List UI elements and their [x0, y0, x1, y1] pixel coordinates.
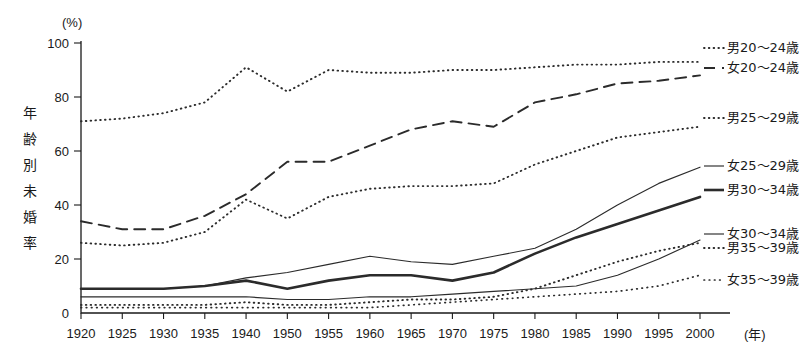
chart-legend: 男20～24歳女20～24歳男25～29歳女25～29歳男30～34歳女30～3…: [704, 40, 799, 287]
series-line-5: [81, 240, 700, 299]
y-tick-label: 40: [55, 198, 69, 213]
series-line-1: [81, 75, 700, 229]
y-tick-label: 100: [47, 36, 69, 51]
y-axis-title-char: 別: [23, 157, 37, 173]
y-axis-title-char: 年: [23, 105, 37, 121]
x-tick-label: 1970: [438, 326, 467, 341]
y-axis-unit-label: (%): [62, 15, 82, 30]
x-tick-label: 1955: [314, 326, 343, 341]
chart-container: (%) 年齢別未婚率 020406080100 1920192519301935…: [0, 0, 804, 350]
y-tick-label: 20: [55, 252, 69, 267]
y-axis-title: 年齢別未婚率: [23, 105, 37, 251]
legend-label-7: 女35～39歳: [727, 272, 799, 287]
y-axis-title-char: 率: [23, 235, 37, 251]
x-tick-label: 1960: [355, 326, 384, 341]
y-tick-label: 60: [55, 144, 69, 159]
y-axis-title-char: 齢: [23, 131, 37, 147]
line-chart: (%) 年齢別未婚率 020406080100 1920192519301935…: [0, 0, 804, 350]
legend-label-1: 女20～24歳: [727, 60, 799, 75]
x-tick-label: 1935: [190, 326, 219, 341]
x-tick-label: 1930: [149, 326, 178, 341]
series-line-7: [81, 275, 700, 307]
y-axis-title-char: 婚: [23, 209, 37, 225]
legend-label-6: 男35～39歳: [727, 240, 799, 255]
legend-label-2: 男25～29歳: [727, 110, 799, 125]
x-tick-label: 1925: [108, 326, 137, 341]
y-axis-title-char: 未: [23, 183, 37, 199]
x-tick-label: 1990: [603, 326, 632, 341]
x-tick-label: 2000: [686, 326, 715, 341]
x-axis-unit: (年): [744, 327, 766, 342]
legend-label-3: 女25～29歳: [727, 158, 799, 173]
legend-label-4: 男30～34歳: [727, 182, 799, 197]
x-tick-label: 1995: [644, 326, 673, 341]
x-axis-ticks: 1920192519301935194019501955196019651970…: [67, 313, 715, 341]
y-axis-ticks: 020406080100: [47, 36, 81, 321]
y-axis-unit: (%): [62, 15, 82, 30]
x-tick-label: 1985: [562, 326, 591, 341]
x-tick-label: 1980: [520, 326, 549, 341]
legend-label-5: 女30～34歳: [727, 226, 799, 241]
legend-label-0: 男20～24歳: [727, 40, 799, 55]
y-tick-label: 0: [62, 306, 69, 321]
x-axis-unit-label: (年): [744, 327, 766, 342]
x-tick-label: 1950: [273, 326, 302, 341]
y-tick-label: 80: [55, 90, 69, 105]
x-tick-label: 1975: [479, 326, 508, 341]
x-tick-label: 1920: [67, 326, 96, 341]
series-line-0: [81, 62, 700, 121]
x-tick-label: 1940: [232, 326, 261, 341]
data-series-group: [81, 62, 700, 308]
series-line-6: [81, 243, 700, 305]
x-tick-label: 1965: [397, 326, 426, 341]
